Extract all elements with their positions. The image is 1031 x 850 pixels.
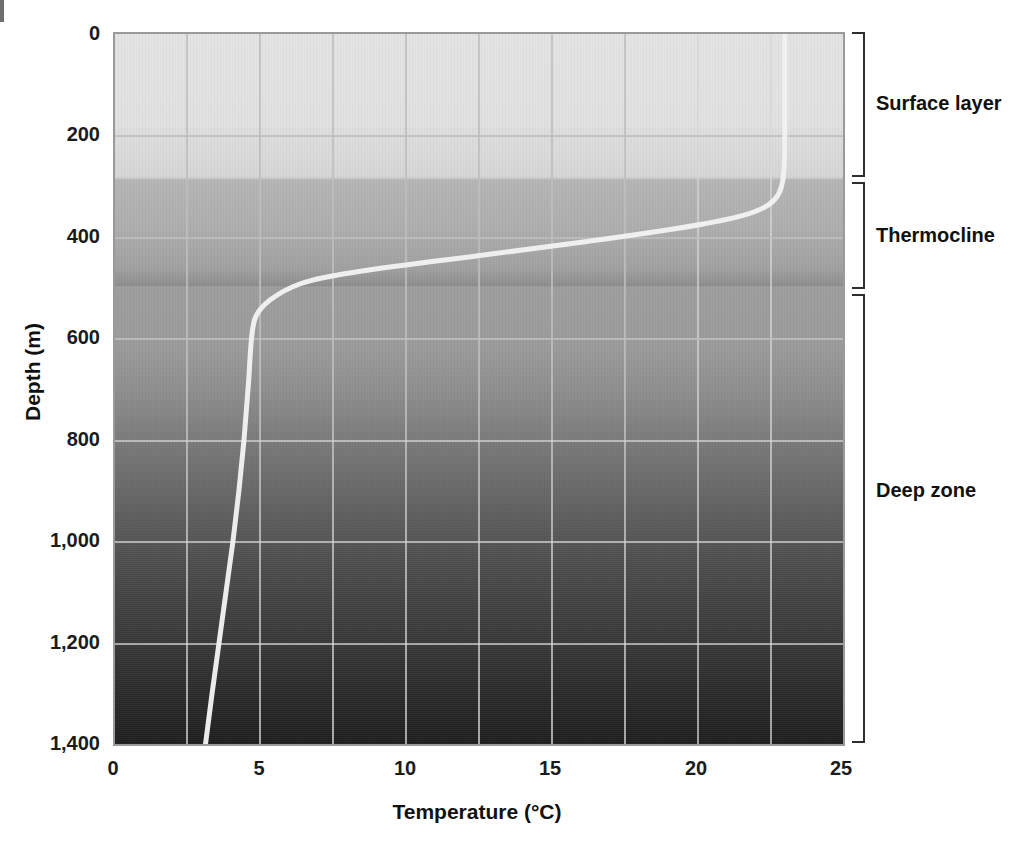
y-tick-label: 1,200 [8, 631, 100, 654]
y-axis-title: Depth (m) [21, 277, 45, 467]
x-tick-label: 20 [651, 757, 741, 780]
x-tick-label: 25 [796, 757, 886, 780]
zone-label-surface-layer: Surface layer [876, 92, 1002, 115]
zone-label-thermocline: Thermocline [876, 224, 995, 247]
bracket-surface-layer [852, 32, 865, 177]
zone-label-deep-zone: Deep zone [876, 479, 976, 502]
x-tick-label: 15 [505, 757, 595, 780]
bracket-thermocline [852, 182, 865, 289]
x-tick-label: 0 [68, 757, 158, 780]
bracket-deep-zone [852, 294, 865, 743]
temperature-curve [115, 34, 843, 744]
page-edge-artifact [0, 0, 4, 22]
y-tick-label: 0 [8, 22, 100, 45]
y-tick-label: 1,400 [8, 732, 100, 755]
temperature-depth-profile-figure: 0 200 400 600 800 1,000 1,200 1,400 0 5 … [0, 0, 1031, 850]
y-tick-label: 400 [8, 225, 100, 248]
x-axis-title: Temperature (°C) [113, 800, 841, 824]
plot-area [113, 32, 845, 746]
x-tick-label: 10 [360, 757, 450, 780]
y-tick-label: 200 [8, 123, 100, 146]
x-tick-label: 5 [214, 757, 304, 780]
y-tick-label: 1,000 [8, 529, 100, 552]
